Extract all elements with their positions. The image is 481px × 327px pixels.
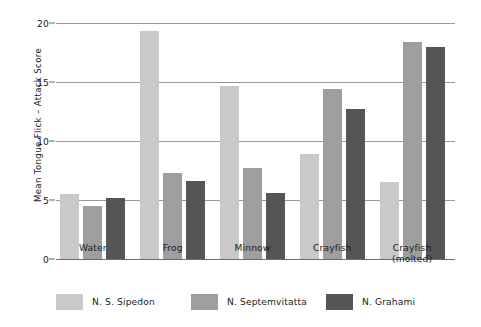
legend-label: N. Grahami: [362, 297, 415, 307]
bar-groups: [56, 23, 455, 259]
y-tick-label-15: 15: [37, 77, 49, 88]
plot-area: 05101520: [56, 23, 455, 259]
tick-mark-10: [49, 141, 55, 142]
legend-item[interactable]: N. S. Sipedon: [56, 294, 155, 310]
legend-label: N. Septemvitatta: [227, 297, 307, 307]
bar: [346, 109, 365, 259]
legend-swatch: [326, 294, 353, 310]
y-axis-title: Mean Tongue Flick – Attack Score: [33, 15, 43, 235]
y-tick-label-0: 0: [43, 254, 49, 265]
legend-label: N. S. Sipedon: [92, 297, 155, 307]
y-tick-label-20: 20: [37, 18, 49, 29]
bar: [403, 42, 422, 259]
legend-item[interactable]: N. Septemvitatta: [191, 294, 307, 310]
tick-mark-15: [49, 82, 55, 83]
bar-group: [220, 23, 285, 259]
x-axis-label: Crayfish (molted): [358, 243, 467, 265]
bar-group: [380, 23, 445, 259]
tick-mark-5: [49, 200, 55, 201]
legend: N. S. SipedonN. SeptemvitattaN. Grahami: [56, 294, 456, 318]
bar-group: [300, 23, 365, 259]
bar-chart: Mean Tongue Flick – Attack Score 0510152…: [0, 0, 481, 327]
bar: [140, 31, 159, 259]
bar: [426, 47, 445, 259]
bar: [323, 89, 342, 259]
bar-group: [60, 23, 125, 259]
y-tick-label-10: 10: [37, 136, 49, 147]
legend-swatch: [56, 294, 83, 310]
legend-item[interactable]: N. Grahami: [326, 294, 415, 310]
y-tick-label-5: 5: [43, 195, 49, 206]
tick-mark-20: [49, 23, 55, 24]
bar: [220, 86, 239, 259]
bar-group: [140, 23, 205, 259]
tick-mark-0: [49, 259, 55, 260]
legend-swatch: [191, 294, 218, 310]
